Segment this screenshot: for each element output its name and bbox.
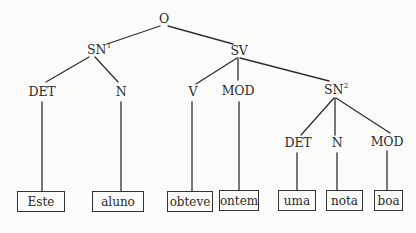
node-label: SV [230, 43, 247, 58]
node-label: N [116, 84, 127, 99]
leaf-word-ontem: ontem [219, 190, 259, 211]
node-label: MOD [371, 134, 403, 149]
syntax-tree-diagram: O SN1 SV DET N V MOD SN2 DET N MOD Este … [0, 0, 416, 233]
leaf-word: aluno [101, 195, 135, 209]
node-index: 2 [344, 82, 348, 90]
leaf-word-nota: nota [326, 190, 363, 211]
node-det-2: DET [285, 137, 312, 150]
node-label: DET [285, 135, 312, 150]
node-mod-2: MOD [371, 136, 403, 149]
edge-sv-sn2 [240, 58, 329, 81]
leaf-word-obteve: obteve [167, 191, 213, 212]
node-label: SN [87, 42, 106, 57]
edge-sn1-n [95, 57, 118, 82]
leaf-word: ontem [220, 194, 258, 208]
node-det-1: DET [29, 86, 56, 99]
edge-sn1-det [46, 57, 89, 82]
node-label: V [189, 84, 198, 99]
node-n-1: N [116, 86, 127, 99]
leaf-word-este: Este [17, 191, 65, 212]
node-n-2: N [332, 137, 343, 150]
node-label: MOD [222, 83, 254, 98]
node-sn1: SN1 [87, 44, 111, 57]
leaf-word: Este [28, 195, 55, 209]
node-sv: SV [230, 45, 247, 58]
node-v: V [189, 86, 198, 99]
edge-sv-v [196, 58, 237, 84]
edge-sn2-mod [336, 98, 390, 133]
edge-o-sv [168, 26, 233, 44]
node-index: 1 [107, 42, 111, 50]
leaf-word: nota [331, 194, 358, 208]
node-o: O [159, 13, 169, 26]
node-sn2: SN2 [324, 84, 348, 97]
edge-o-sn1 [107, 26, 160, 44]
node-mod-1: MOD [222, 85, 254, 98]
node-label: SN [324, 82, 343, 97]
leaf-word-boa: boa [374, 190, 403, 211]
leaf-word: uma [284, 194, 310, 208]
leaf-word: obteve [170, 195, 211, 209]
leaf-word-uma: uma [278, 190, 316, 211]
node-label: N [332, 135, 343, 150]
leaf-word-aluno: aluno [92, 191, 144, 212]
node-label: DET [29, 84, 56, 99]
leaf-word: boa [377, 194, 399, 208]
node-label: O [159, 11, 169, 26]
edge-sn2-det [301, 98, 334, 135]
